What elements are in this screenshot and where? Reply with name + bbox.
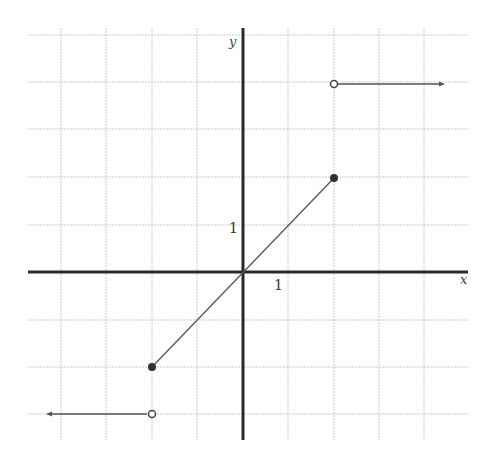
open-point (149, 411, 156, 418)
y-axis-label: y (228, 34, 237, 49)
open-point (331, 81, 338, 88)
closed-point (148, 363, 156, 371)
closed-point (330, 174, 338, 182)
y-tick-label: 1 (229, 220, 238, 236)
arrow-left-icon (46, 412, 52, 417)
x-axis-label: x (460, 272, 468, 287)
x-tick-label: 1 (274, 277, 283, 293)
grid (28, 28, 468, 440)
function-graph: y x 1 1 (0, 0, 496, 466)
left-ray (46, 411, 156, 418)
